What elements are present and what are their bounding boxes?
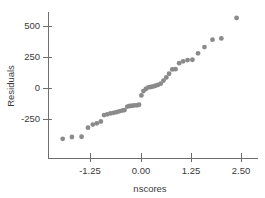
y-tick-label-250: 250 (24, 51, 40, 62)
data-point (79, 134, 84, 139)
x-tick-label-minus125: -1.25 (79, 165, 101, 176)
data-points-layer (60, 16, 239, 142)
qq-plot-figure: 500 250 0 -250 Residuals -1.25 0.00 1.25… (0, 0, 265, 198)
data-point (139, 93, 144, 98)
data-point (219, 36, 224, 41)
data-point (196, 51, 201, 56)
x-tick-label-0: 0.00 (132, 165, 151, 176)
y-tick-label-minus250: -250 (21, 113, 40, 124)
data-point (185, 58, 190, 63)
data-point (190, 57, 195, 62)
data-point (60, 136, 65, 141)
data-point (167, 71, 172, 76)
y-axis-title: Residuals (5, 65, 16, 107)
x-tick-label-250: 2.50 (232, 165, 251, 176)
y-axis-group: 500 250 0 -250 Residuals (5, 12, 52, 158)
scatter-plot-canvas: 500 250 0 -250 Residuals -1.25 0.00 1.25… (0, 0, 265, 198)
x-axis-group: -1.25 0.00 1.25 2.50 nscores (48, 153, 258, 194)
data-point (137, 102, 142, 107)
data-point (70, 135, 75, 140)
data-point (202, 45, 207, 50)
y-tick-label-500: 500 (24, 20, 40, 31)
data-point (210, 37, 215, 42)
data-point (86, 125, 91, 130)
data-point (181, 59, 186, 64)
y-tick-label-0: 0 (35, 82, 40, 93)
x-axis-title: nscores (133, 183, 167, 194)
data-point (98, 119, 103, 124)
data-point (173, 67, 178, 72)
x-tick-label-125: 1.25 (182, 165, 201, 176)
data-point (234, 16, 239, 21)
